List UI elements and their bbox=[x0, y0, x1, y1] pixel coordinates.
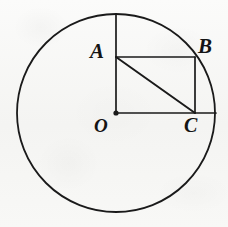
vertex-label-o: O bbox=[94, 116, 108, 135]
geometry-figure: A B O C bbox=[0, 0, 228, 227]
vertex-label-b: B bbox=[198, 36, 212, 57]
segment-diagonal-ac bbox=[116, 57, 195, 113]
vertex-label-a: A bbox=[90, 41, 104, 62]
vertex-label-c: C bbox=[184, 115, 197, 135]
center-point-dot bbox=[113, 110, 118, 115]
